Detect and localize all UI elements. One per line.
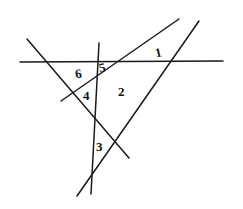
geometry-figure: 1 2 3 4 5 6 [0,0,243,209]
angle-label-2: 2 [118,85,125,98]
angle-label-4: 4 [83,89,90,102]
horizontal-line [20,61,223,62]
angle-label-6: 6 [74,67,82,81]
line-drawing-canvas [0,0,243,209]
descending-line [27,39,129,158]
angle-label-5: 5 [98,61,107,75]
angle-label-3: 3 [96,140,103,153]
